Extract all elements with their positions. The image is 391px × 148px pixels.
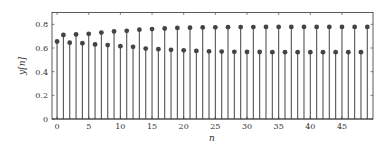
stem-point [80, 41, 85, 119]
stem-point [156, 47, 161, 119]
x-tick-label: 0 [55, 122, 60, 131]
stem-point [340, 25, 345, 119]
y-tick-label: 0.8 [35, 20, 48, 29]
stem-point [99, 30, 104, 119]
x-tick-label: 40 [305, 122, 315, 131]
stem-series [52, 25, 373, 119]
stem-marker [200, 25, 205, 30]
x-tick-label: 45 [337, 122, 347, 131]
y-tick-label: 0.4 [35, 68, 48, 77]
stem-marker [156, 47, 161, 52]
stem-point [321, 50, 326, 119]
x-tick-label: 20 [179, 122, 189, 131]
stem-marker [264, 25, 269, 30]
stem-marker [340, 25, 345, 30]
stem-marker [181, 48, 186, 53]
stem-point [251, 25, 256, 119]
stem-point [346, 50, 351, 119]
x-tick-label: 35 [274, 122, 284, 131]
stem-marker [270, 50, 275, 55]
stem-point [137, 27, 142, 119]
x-tick-label: 15 [147, 122, 157, 131]
stem-marker [169, 47, 174, 52]
x-tick-label: 25 [210, 122, 220, 131]
stem-point [55, 39, 60, 119]
stem-marker [118, 44, 123, 49]
stem-marker [276, 25, 281, 30]
stem-marker [245, 50, 250, 55]
stem-marker [289, 25, 294, 30]
stem-point [314, 25, 319, 119]
stem-point [302, 25, 307, 119]
stem-point [308, 50, 313, 119]
stem-point [74, 32, 79, 119]
stem-marker [213, 25, 218, 30]
stem-point [188, 25, 193, 119]
stem-marker [333, 50, 338, 55]
stem-point [289, 25, 294, 119]
stem-marker [162, 26, 167, 31]
stem-point [200, 25, 205, 119]
stem-marker [55, 39, 60, 44]
stem-marker [314, 25, 319, 30]
stem-point [219, 49, 224, 119]
stem-marker [175, 25, 180, 30]
stem-point [67, 40, 72, 119]
stem-point [112, 29, 117, 119]
x-tick-label: 5 [86, 122, 91, 131]
stem-marker [105, 43, 110, 48]
stem-point [131, 44, 136, 119]
stem-marker [346, 50, 351, 55]
axes-frame [52, 13, 373, 120]
stem-point [270, 50, 275, 119]
stem-marker [238, 25, 243, 30]
stem-marker [226, 25, 231, 30]
stem-point [365, 25, 370, 119]
stem-point [257, 50, 262, 119]
stem-point [169, 47, 174, 119]
stem-marker [283, 50, 288, 55]
stem-marker [86, 31, 91, 36]
stem-marker [112, 29, 117, 34]
stem-marker [131, 44, 136, 49]
stem-marker [194, 49, 199, 54]
stem-marker [359, 50, 364, 55]
stem-point [105, 43, 110, 119]
stem-point [181, 48, 186, 119]
stem-marker [80, 41, 85, 46]
stem-marker [302, 25, 307, 30]
stem-point [283, 50, 288, 119]
stem-marker [150, 27, 155, 32]
stem-point [207, 49, 212, 119]
stem-marker [308, 50, 313, 55]
stem-marker [327, 25, 332, 30]
stem-marker [232, 49, 237, 54]
stem-point [333, 50, 338, 119]
stem-point [213, 25, 218, 119]
stem-marker [321, 50, 326, 55]
x-axis-label: n [209, 133, 215, 143]
y-tick-label: 0 [43, 115, 48, 124]
stem-point [194, 49, 199, 119]
stem-marker [124, 28, 129, 33]
stem-point [238, 25, 243, 119]
stem-marker [188, 25, 193, 30]
stem-point [118, 44, 123, 119]
stem-point [327, 25, 332, 119]
stem-marker [207, 49, 212, 54]
y-axis-ticks: 00.20.40.60.8 [35, 20, 373, 124]
stem-chart: 051015202530354045 00.20.40.60.8 n y[n] [0, 0, 391, 148]
stem-point [61, 33, 66, 119]
stem-point [226, 25, 231, 119]
y-tick-label: 0.2 [35, 91, 48, 100]
stem-point [352, 25, 357, 119]
stem-point [86, 31, 91, 119]
stem-marker [137, 27, 142, 32]
stem-marker [74, 32, 79, 37]
stem-marker [99, 30, 104, 35]
y-axis-label: y[n] [17, 57, 27, 76]
stem-marker [219, 49, 224, 54]
stem-marker [352, 25, 357, 30]
stem-point [276, 25, 281, 119]
stem-point [359, 50, 364, 119]
